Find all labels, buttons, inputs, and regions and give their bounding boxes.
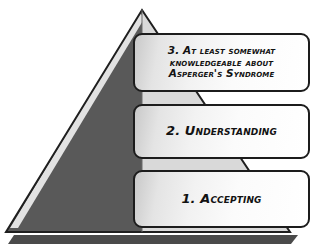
pyramid-level-3-box[interactable]: 3. At least somewhat knowledgeable about… bbox=[133, 33, 310, 92]
pyramid-diagram-canvas: Asperger's Syndrome support pyramid 3. A… bbox=[0, 0, 319, 246]
pyramid-level-3-label: 3. At least somewhat knowledgeable about… bbox=[160, 45, 283, 80]
pyramid-level-2-box[interactable]: 2. Understanding bbox=[133, 104, 310, 159]
pyramid-level-1-label: 1. Accepting bbox=[173, 192, 269, 207]
pyramid-level-2-label: 2. Understanding bbox=[158, 124, 285, 139]
pyramid-level-1-box[interactable]: 1. Accepting bbox=[133, 170, 310, 228]
pyramid-level-boxes: 3. At least somewhat knowledgeable about… bbox=[0, 0, 319, 246]
